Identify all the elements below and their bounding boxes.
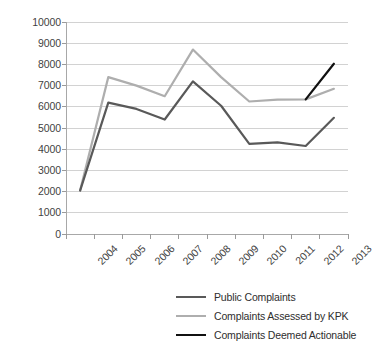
legend-item: Complaints Assessed by KPK: [176, 307, 366, 324]
series-line-0: [80, 81, 334, 190]
y-axis-tick-label: 4000: [9, 144, 61, 155]
legend-item: Complaints Deemed Actionable: [176, 326, 366, 343]
y-axis-tick-label: 1000: [9, 207, 61, 218]
chart-legend: Public ComplaintsComplaints Assessed by …: [176, 288, 366, 345]
x-axis-tick-label: 2013: [350, 243, 374, 267]
legend-item-label: Complaints Assessed by KPK: [214, 310, 348, 322]
y-axis-tick-label: 8000: [9, 59, 61, 70]
y-axis-tick-label: 9000: [9, 38, 61, 49]
y-axis-tick-label: 10000: [9, 17, 61, 28]
x-axis-tick-label: 2004: [96, 243, 120, 267]
x-axis-tick-label: 2005: [124, 243, 148, 267]
x-axis-tick-label: 2007: [180, 243, 204, 267]
y-axis-tick-label: 7000: [9, 80, 61, 91]
y-axis-tick-label: 2000: [9, 186, 61, 197]
legend-swatch-line-icon: [176, 296, 206, 298]
legend-item-label: Complaints Deemed Actionable: [214, 329, 356, 341]
y-axis-tick-labels: 1000090008000700060005000400030002000100…: [5, 0, 61, 250]
x-axis-tick-label: 2009: [237, 243, 261, 267]
y-axis-tick-label: 6000: [9, 101, 61, 112]
y-axis-tick-label: 5000: [9, 123, 61, 134]
x-axis-tick-label: 2008: [209, 243, 233, 267]
x-axis-tick-label: 2012: [321, 243, 345, 267]
y-axis-tick-label: 3000: [9, 165, 61, 176]
x-axis-tick-label: 2006: [152, 243, 176, 267]
legend-swatch-line-icon: [176, 334, 206, 336]
legend-item-label: Public Complaints: [214, 291, 296, 303]
legend-swatch-line-icon: [176, 315, 206, 317]
legend-item: Public Complaints: [176, 288, 366, 305]
x-axis-tick-label: 2011: [293, 243, 316, 266]
x-axis-tick-labels: 2004200520062007200820092010201120122013: [0, 234, 367, 294]
series-line-1: [80, 50, 334, 191]
x-axis-tick-label: 2010: [265, 243, 289, 267]
